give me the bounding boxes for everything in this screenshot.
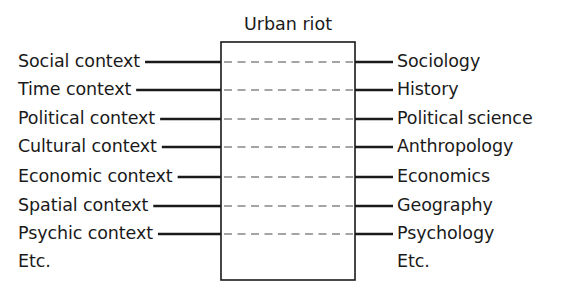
right-discipline-label: Politicalscience xyxy=(397,110,533,128)
left-context-label: Spatial context xyxy=(18,197,148,215)
right-discipline-label: Anthropology xyxy=(397,138,513,156)
urban-riot-box xyxy=(221,42,355,280)
box-title: Urban riot xyxy=(221,16,355,34)
right-discipline-label: Psychology xyxy=(397,225,494,243)
left-context-label: Psychic context xyxy=(18,225,153,243)
etc-label-left: Etc. xyxy=(18,253,51,271)
left-context-label: Social context xyxy=(18,53,140,71)
left-context-label: Time context xyxy=(18,81,131,99)
left-context-label: Economic context xyxy=(18,168,173,186)
right-discipline-label: Economics xyxy=(397,168,490,186)
left-context-label: Political context xyxy=(18,110,155,128)
right-connector-lines xyxy=(355,62,393,234)
right-discipline-label: History xyxy=(397,81,459,99)
context-disciplines-diagram: Urban riot Social contextTime contextPol… xyxy=(0,0,575,303)
right-discipline-label: Sociology xyxy=(397,53,480,71)
urban-riot-box-rect xyxy=(221,42,355,280)
right-discipline-label: Geography xyxy=(397,197,493,215)
left-context-label: Cultural context xyxy=(18,138,157,156)
etc-label-right: Etc. xyxy=(397,253,430,271)
